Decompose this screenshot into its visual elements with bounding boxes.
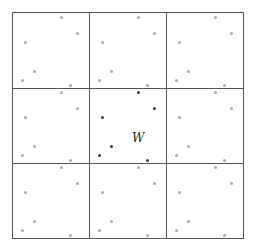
particle-point	[137, 91, 140, 94]
image-particle-point	[214, 166, 217, 169]
image-particle-point	[69, 159, 72, 162]
image-particle-point	[33, 220, 36, 223]
image-particle-point	[24, 116, 27, 119]
central-cell-label: W	[132, 132, 144, 144]
image-particle-point	[187, 145, 190, 148]
image-particle-point	[146, 234, 149, 237]
particle-point	[98, 154, 101, 157]
image-particle-point	[175, 229, 178, 232]
image-particle-point	[76, 182, 79, 185]
particle-point	[146, 159, 149, 162]
image-particle-point	[69, 234, 72, 237]
image-particle-point	[24, 41, 27, 44]
replica-cell	[166, 163, 243, 238]
image-particle-point	[101, 41, 104, 44]
image-particle-point	[146, 84, 149, 87]
image-particle-point	[153, 182, 156, 185]
image-particle-point	[98, 79, 101, 82]
image-particle-point	[223, 159, 226, 162]
replica-cell	[12, 12, 89, 88]
image-particle-point	[137, 16, 140, 19]
image-particle-point	[214, 16, 217, 19]
image-particle-point	[33, 70, 36, 73]
image-particle-point	[24, 191, 27, 194]
image-particle-point	[69, 84, 72, 87]
image-particle-point	[178, 116, 181, 119]
image-particle-point	[230, 182, 233, 185]
image-particle-point	[223, 84, 226, 87]
image-particle-point	[178, 191, 181, 194]
image-particle-point	[175, 79, 178, 82]
replica-cell	[12, 163, 89, 238]
image-particle-point	[21, 229, 24, 232]
image-particle-point	[175, 154, 178, 157]
image-particle-point	[178, 41, 181, 44]
image-particle-point	[101, 191, 104, 194]
image-particle-point	[230, 32, 233, 35]
image-particle-point	[21, 79, 24, 82]
particle-point	[153, 107, 156, 110]
periodic-box-diagram	[0, 0, 256, 249]
image-particle-point	[110, 220, 113, 223]
replica-cell	[166, 12, 243, 88]
replica-cell	[12, 88, 89, 163]
image-particle-point	[60, 91, 63, 94]
image-particle-point	[21, 154, 24, 157]
image-particle-point	[110, 70, 113, 73]
replica-cell	[166, 88, 243, 163]
image-particle-point	[187, 70, 190, 73]
particle-point	[101, 116, 104, 119]
image-particle-point	[33, 145, 36, 148]
image-particle-point	[76, 107, 79, 110]
image-particle-point	[137, 166, 140, 169]
particle-point	[110, 145, 113, 148]
image-particle-point	[187, 220, 190, 223]
image-particle-point	[214, 91, 217, 94]
central-cell	[89, 88, 166, 163]
image-particle-point	[60, 166, 63, 169]
image-particle-point	[223, 234, 226, 237]
image-particle-point	[153, 32, 156, 35]
image-particle-point	[76, 32, 79, 35]
image-particle-point	[230, 107, 233, 110]
image-particle-point	[60, 16, 63, 19]
image-particle-point	[98, 229, 101, 232]
replica-cell	[89, 12, 166, 88]
replica-cell	[89, 163, 166, 238]
